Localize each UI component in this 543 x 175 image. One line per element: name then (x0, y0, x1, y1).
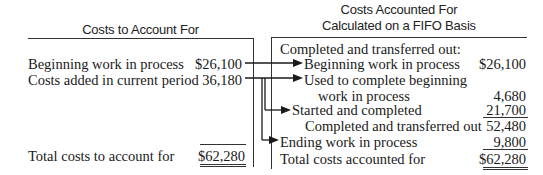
flow-arrows (0, 0, 543, 175)
arrowhead-icon (269, 136, 279, 144)
arrowhead-icon (293, 74, 303, 82)
arrowhead-icon (281, 106, 291, 114)
arrowhead-icon (293, 59, 303, 67)
